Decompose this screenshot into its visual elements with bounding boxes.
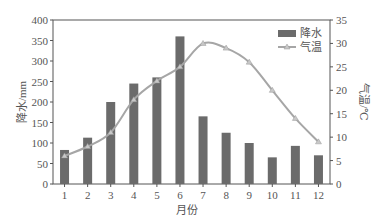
precipitation-bar <box>199 116 208 184</box>
x-tick-label: 10 <box>267 189 279 201</box>
y2-tick-label: 10 <box>336 131 348 143</box>
x-tick-label: 5 <box>154 189 160 201</box>
y2-tick-label: 5 <box>336 155 342 167</box>
temperature-line <box>65 42 319 155</box>
legend-precipitation-label: 降水 <box>300 26 322 39</box>
x-tick-label: 2 <box>85 189 91 201</box>
y-tick-label: 0 <box>43 178 49 190</box>
x-tick-label: 11 <box>290 189 301 201</box>
y-tick-label: 400 <box>32 14 49 26</box>
precipitation-bar <box>245 143 254 184</box>
precipitation-bar <box>268 157 277 184</box>
y-tick-label: 100 <box>32 137 49 149</box>
x-tick-label: 4 <box>131 189 137 201</box>
y2-tick-label: 0 <box>336 178 342 190</box>
x-tick-label: 3 <box>108 189 114 201</box>
precipitation-bar <box>314 155 323 184</box>
precipitation-bar <box>152 77 161 184</box>
y2-tick-label: 15 <box>336 108 348 120</box>
x-tick-label: 12 <box>313 189 324 201</box>
y2-tick-label: 20 <box>336 84 348 96</box>
legend-bar-swatch-icon <box>278 30 296 37</box>
precipitation-bar <box>175 36 184 184</box>
x-tick-label: 1 <box>62 189 68 201</box>
y-tick-label: 300 <box>32 55 49 67</box>
y-tick-label: 150 <box>32 117 49 129</box>
precipitation-temperature-chart: 0501001502002503003504000510152025303512… <box>0 0 375 224</box>
y-tick-label: 350 <box>32 35 49 47</box>
precipitation-bar <box>106 102 115 184</box>
x-tick-label: 7 <box>200 189 206 201</box>
x-tick-label: 6 <box>177 189 183 201</box>
x-axis-label: 月份 <box>176 204 198 216</box>
y-tick-label: 200 <box>32 96 49 108</box>
x-tick-label: 9 <box>246 189 252 201</box>
y2-tick-label: 25 <box>336 61 348 73</box>
plot-frame <box>53 20 330 184</box>
y-axis-label: 降水/mm <box>15 80 28 123</box>
y-tick-label: 50 <box>37 158 49 170</box>
y-tick-label: 250 <box>32 76 49 88</box>
x-tick-label: 8 <box>223 189 229 201</box>
y2-tick-label: 30 <box>336 37 348 49</box>
y2-axis-label: 气温/℃ <box>358 83 371 120</box>
precipitation-bar <box>291 146 300 184</box>
y2-tick-label: 35 <box>336 14 348 26</box>
precipitation-bar <box>222 133 231 184</box>
legend-temperature-label: 气温 <box>300 40 322 53</box>
